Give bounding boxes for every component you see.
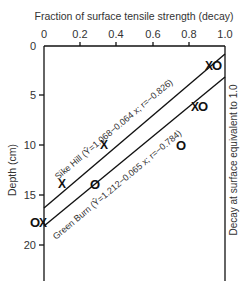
x-tick-0: 0 <box>41 28 47 40</box>
y-tick-20: 20 <box>24 239 36 251</box>
y-tick-5: 5 <box>30 89 36 101</box>
x-marker: X <box>100 138 108 152</box>
y-tick-0: 0 <box>30 40 36 52</box>
sike-hill-points: X X X X X <box>39 59 213 230</box>
x-axis-title: Fraction of surface tensile strength (de… <box>34 10 233 22</box>
green-burn-points: O O O O O <box>30 58 222 230</box>
x-tick-0.8: 0.8 <box>181 28 196 40</box>
o-marker: O <box>90 177 100 192</box>
y-axis-title: Depth (cm) <box>6 144 18 196</box>
depth-decay-chart: Fraction of surface tensile strength (de… <box>0 0 251 290</box>
o-marker: O <box>176 138 186 153</box>
sike-hill-equation: Sike Hill (Ŷ=1.068−0.064 x; r=−0.826) <box>53 77 175 181</box>
x-axis <box>44 42 225 46</box>
x-marker: X <box>58 177 66 191</box>
x-marker: X <box>39 216 47 230</box>
x-tick-1.0: 1.0 <box>217 28 232 40</box>
y-axis <box>39 46 44 281</box>
y-tick-10: 10 <box>24 139 36 151</box>
o-marker: O <box>198 99 208 114</box>
y-tick-15: 15 <box>24 189 36 201</box>
right-axis-title: Decay at surface equivalent to 1.0 <box>228 84 239 236</box>
o-marker: O <box>212 58 222 73</box>
x-tick-0.4: 0.4 <box>108 28 123 40</box>
x-tick-labels: 0 0.2 0.4 0.6 0.8 1.0 <box>41 28 233 40</box>
x-tick-0.2: 0.2 <box>72 28 87 40</box>
o-marker: O <box>30 215 40 230</box>
x-tick-0.6: 0.6 <box>145 28 160 40</box>
sike-hill-regression-line <box>44 54 225 208</box>
